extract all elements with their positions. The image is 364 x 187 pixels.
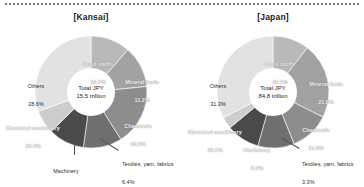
slice-label-chemicals-value-kansai: 16.5% xyxy=(116,141,160,147)
slice-label-others-name-japan: Others xyxy=(198,83,238,89)
slice-label-electrical-machinery-value-kansai: 10.4% xyxy=(2,143,64,149)
chart-panel-japan: [Japan] Total JPY 84.8 trillion Food stu… xyxy=(182,8,364,180)
donut-chart-japan: Total JPY 84.8 trillion Food stuffs 10.1… xyxy=(182,24,364,174)
slice-label-mineral-fuels-japan: Mineral fuels 21.0% xyxy=(302,68,350,118)
slice-label-foodstuffs-japan: Food stuffs 10.1% xyxy=(258,48,302,98)
slice-label-mineral-fuels-value-japan: 21.0% xyxy=(302,99,350,105)
slice-label-mineral-fuels-name-kansai: Mineral fuels xyxy=(118,79,166,85)
top-dotted-divider xyxy=(4,3,360,5)
slice-label-textiles-value-kansai: 6.4% xyxy=(122,179,182,185)
panel-title-japan: [Japan] xyxy=(182,12,364,22)
slice-label-chemicals-name-japan: Chemicals xyxy=(294,127,338,133)
figure-root: [Kansai] Total JPY 15.5 trillion Food st… xyxy=(0,0,364,187)
slice-label-machinery-kansai: Machinery 9.7% xyxy=(40,155,92,187)
slice-label-machinery-value-kansai: 9.7% xyxy=(40,186,92,187)
donut-chart-kansai: Total JPY 15.5 trillion Food stuffs 10.7… xyxy=(0,24,182,174)
slice-label-foodstuffs-name-japan: Food stuffs xyxy=(258,61,302,67)
leader-line-machinery-kansai xyxy=(74,142,75,155)
slice-label-machinery-value-japan: 9.2% xyxy=(234,165,280,171)
chart-panel-kansai: [Kansai] Total JPY 15.5 trillion Food st… xyxy=(0,8,182,180)
slice-label-textiles-name-japan: Textiles, yarn, fabrics xyxy=(302,161,360,167)
slice-label-chemicals-name-kansai: Chemicals xyxy=(116,123,160,129)
slice-label-others-name-kansai: Others xyxy=(16,83,56,89)
slice-label-textiles-japan: Textiles, yarn, fabrics 3.3% xyxy=(302,148,360,187)
slice-label-foodstuffs-value-japan: 10.1% xyxy=(258,79,302,85)
slice-label-machinery-name-kansai: Machinery xyxy=(40,168,92,174)
slice-label-machinery-name-japan: Machinery xyxy=(234,147,280,153)
slice-label-machinery-japan: Machinery 9.2% xyxy=(234,134,280,184)
slice-label-others-kansai: Others 28.6% xyxy=(16,70,56,120)
slice-label-textiles-value-japan: 3.3% xyxy=(302,179,360,185)
slice-label-textiles-name-kansai: Textiles, yarn, fabrics xyxy=(122,161,182,167)
slice-label-mineral-fuels-name-japan: Mineral fuels xyxy=(302,81,350,87)
slice-label-electrical-machinery-name-kansai: Electrical machinery xyxy=(2,125,64,131)
slice-label-others-japan: Others 31.3% xyxy=(198,70,238,120)
slice-label-mineral-fuels-kansai: Mineral fuels 11.2% xyxy=(118,66,166,116)
slice-label-foodstuffs-kansai: Food stuffs 10.7% xyxy=(76,48,120,98)
slice-label-foodstuffs-value-kansai: 10.7% xyxy=(76,79,120,85)
slice-label-textiles-kansai: Textiles, yarn, fabrics 6.4% xyxy=(122,148,182,187)
slice-label-others-value-kansai: 28.6% xyxy=(16,101,56,107)
panel-title-kansai: [Kansai] xyxy=(0,12,182,22)
slice-label-others-value-japan: 31.3% xyxy=(198,101,238,107)
slice-label-foodstuffs-name-kansai: Food stuffs xyxy=(76,61,120,67)
slice-label-mineral-fuels-value-kansai: 11.2% xyxy=(118,97,166,103)
